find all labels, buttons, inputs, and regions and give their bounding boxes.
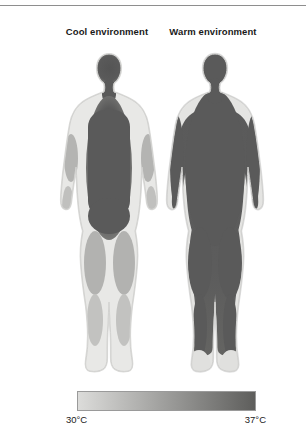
thermal-body-figure: Cool environment Warm environment — [0, 0, 306, 437]
warm-core-left-thigh — [218, 227, 242, 299]
colorbar-tick-labels: 30°C 37°C — [60, 414, 272, 428]
warm-cool-right-foot — [187, 350, 211, 386]
panel-label-cool-environment: Cool environment — [46, 26, 168, 37]
colorbar-max-label: 37°C — [245, 414, 266, 425]
cool-zone-right-calf — [87, 294, 103, 346]
panel-label-row: Cool environment Warm environment — [0, 26, 306, 40]
cool-core-abdomen — [88, 198, 130, 234]
panel-label-warm-environment: Warm environment — [152, 26, 274, 37]
warm-core-left-arm — [246, 115, 260, 211]
warm-cool-left-hand — [246, 213, 264, 239]
warm-cool-left-foot — [219, 350, 243, 386]
cool-zone-left-thigh — [113, 231, 135, 295]
body-warm-environment — [166, 53, 264, 386]
body-cool-environment — [61, 54, 157, 371]
warm-core-right-arm — [170, 115, 184, 211]
warm-thermal-zones — [166, 53, 264, 386]
warm-core-torso — [185, 90, 245, 246]
warm-core-right-thigh — [188, 227, 212, 299]
warm-cool-right-hand — [166, 213, 184, 239]
warm-core-left-calf — [223, 294, 237, 358]
warm-core-right-calf — [193, 294, 207, 358]
temperature-colorbar — [77, 391, 256, 411]
cool-zone-right-thigh — [84, 231, 106, 295]
temperature-gradient — [77, 391, 256, 411]
body-diagrams — [0, 48, 306, 388]
colorbar-min-label: 30°C — [66, 414, 87, 425]
top-divider-rule — [0, 5, 306, 6]
